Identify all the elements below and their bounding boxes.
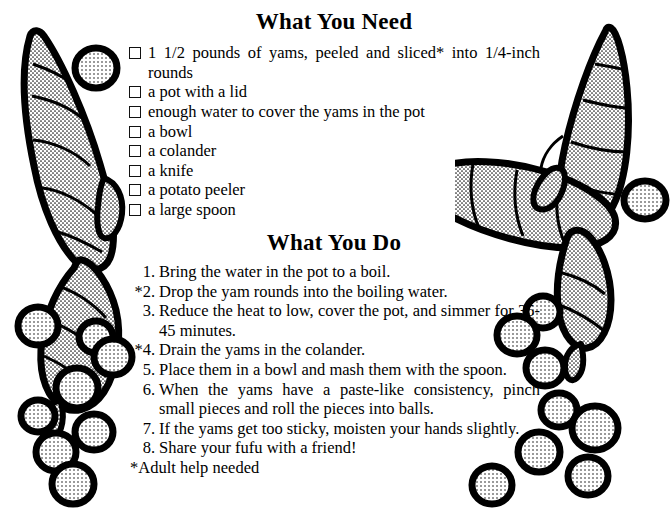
step-item: 1. Bring the water in the pot to a boil.: [128, 262, 540, 282]
list-item[interactable]: a potato peeler: [128, 180, 540, 200]
list-item[interactable]: enough water to cover the yams in the po…: [128, 102, 540, 122]
ingredient-text: a pot with a lid: [148, 82, 540, 102]
step-item: 3. Reduce the heat to low, cover the pot…: [128, 301, 540, 340]
list-item[interactable]: a pot with a lid: [128, 82, 540, 102]
step-number: 8.: [128, 438, 155, 458]
instructions-list: 1. Bring the water in the pot to a boil.…: [128, 262, 540, 458]
ingredients-list: 1 1/2 pounds of yams, peeled and sliced*…: [128, 43, 540, 219]
ingredient-text: a knife: [148, 161, 540, 181]
ingredient-text: a potato peeler: [148, 180, 540, 200]
step-item: 6. When the yams have a paste-like consi…: [128, 380, 540, 419]
step-item: *4. Drain the yams in the colander.: [128, 340, 540, 360]
ingredient-text: 1 1/2 pounds of yams, peeled and sliced*…: [148, 43, 540, 82]
step-text: Reduce the heat to low, cover the pot, a…: [159, 301, 540, 340]
fufu-ball: [36, 433, 76, 471]
checkbox-icon[interactable]: [129, 165, 141, 177]
checkbox-icon[interactable]: [129, 204, 141, 216]
checkbox-icon[interactable]: [129, 86, 141, 98]
step-number: 3.: [128, 301, 155, 321]
fufu-ball: [572, 406, 618, 450]
step-text: Place them in a bowl and mash them with …: [159, 360, 540, 380]
ingredient-text: enough water to cover the yams in the po…: [148, 102, 540, 122]
checkbox-icon[interactable]: [129, 106, 141, 118]
step-text: Share your fufu with a friend!: [159, 438, 540, 458]
fufu-ball: [56, 368, 98, 408]
ingredient-text: a large spoon: [148, 200, 540, 220]
step-item: *2. Drop the yam rounds into the boiling…: [128, 282, 540, 302]
fufu-ball: [18, 307, 58, 345]
step-text: Drop the yam rounds into the boiling wat…: [159, 282, 540, 302]
list-item[interactable]: a large spoon: [128, 200, 540, 220]
list-item[interactable]: 1 1/2 pounds of yams, peeled and sliced*…: [128, 43, 540, 82]
list-item[interactable]: a knife: [128, 161, 540, 181]
step-number: 5.: [128, 360, 155, 380]
step-number: 6.: [128, 380, 155, 400]
step-text: Drain the yams in the colander.: [159, 340, 540, 360]
ingredient-text: a colander: [148, 141, 540, 161]
step-number: 7.: [128, 419, 155, 439]
step-number: *4.: [128, 340, 155, 360]
list-item[interactable]: a colander: [128, 141, 540, 161]
what-you-do-heading: What You Do: [128, 230, 540, 255]
yam-shape: [24, 31, 122, 270]
adult-help-footnote: *Adult help needed: [128, 458, 540, 478]
yam-shape: [557, 230, 611, 380]
what-you-need-heading: What You Need: [128, 9, 540, 34]
checkbox-icon[interactable]: [129, 47, 141, 59]
fufu-ball: [94, 339, 132, 375]
fufu-ball: [79, 321, 113, 353]
recipe-page: What You Need 1 1/2 pounds of yams, peel…: [0, 0, 670, 522]
step-item: 5. Place them in a bowl and mash them wi…: [128, 360, 540, 380]
checkbox-icon[interactable]: [129, 145, 141, 157]
step-item: 7. If the yams get too sticky, moisten y…: [128, 419, 540, 439]
step-number: 1.: [128, 262, 155, 282]
fufu-ball: [52, 464, 94, 504]
yam-shape: [41, 260, 119, 443]
checkbox-icon[interactable]: [129, 184, 141, 196]
fufu-ball: [568, 457, 608, 495]
fufu-ball: [21, 400, 55, 432]
fufu-ball: [624, 181, 666, 219]
fufu-ball: [75, 48, 117, 88]
checkbox-icon[interactable]: [129, 126, 141, 138]
list-item[interactable]: a bowl: [128, 122, 540, 142]
yam-shape: [541, 27, 629, 229]
step-item: 8. Share your fufu with a friend!: [128, 438, 540, 458]
fufu-ball: [75, 414, 113, 450]
step-number: *2.: [128, 282, 155, 302]
step-text: Bring the water in the pot to a boil.: [159, 262, 540, 282]
ingredient-text: a bowl: [148, 122, 540, 142]
step-text: If the yams get too sticky, moisten your…: [159, 419, 540, 439]
recipe-text-column: What You Need 1 1/2 pounds of yams, peel…: [128, 0, 540, 477]
fufu-ball: [541, 393, 577, 427]
step-text: When the yams have a paste-like consiste…: [159, 380, 540, 419]
